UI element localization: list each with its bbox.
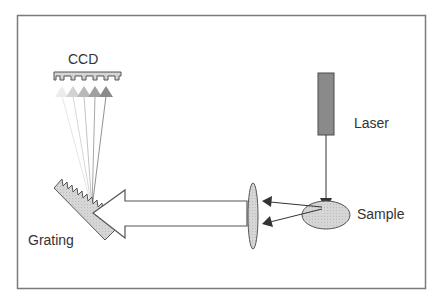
grating-label: Grating	[28, 232, 74, 248]
laser-source	[318, 73, 334, 135]
ccd-label: CCD	[68, 51, 98, 67]
laser-label: Laser	[354, 115, 389, 131]
sample	[302, 201, 350, 229]
collection-lens	[248, 183, 258, 249]
spectrometer-diagram	[0, 0, 444, 298]
sample-label: Sample	[357, 206, 404, 222]
